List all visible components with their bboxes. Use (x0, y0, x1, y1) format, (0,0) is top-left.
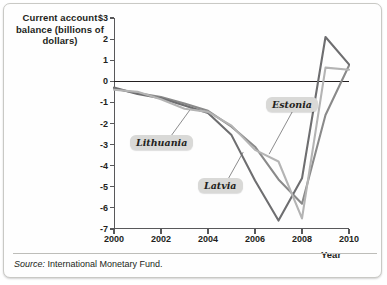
y-tick-label: -7 (100, 224, 108, 234)
x-tick-label: 2008 (292, 234, 312, 244)
plot-area: $3210-1-2-3-4-5-6-7 20002002200420062008… (114, 18, 349, 229)
x-tick (207, 229, 208, 234)
callout-leader-latvia (229, 152, 244, 178)
x-tick-label: 2006 (245, 234, 265, 244)
series-callout-latvia: Latvia (198, 178, 243, 193)
x-tick (254, 229, 255, 234)
y-axis-title: Current account balance (billions of dol… (12, 12, 108, 47)
y-tick-label: -4 (100, 161, 108, 171)
x-tick (113, 229, 114, 234)
y-tick-label: -2 (100, 119, 108, 129)
series-line-latvia (114, 37, 349, 221)
series-callout-estonia: Estonia (266, 97, 318, 112)
x-tick (301, 229, 302, 234)
x-axis-title: Year (321, 249, 341, 260)
y-tick-label: -1 (100, 97, 108, 107)
x-tick-label: 2004 (198, 234, 218, 244)
y-tick-label: -6 (100, 203, 108, 213)
x-tick-label: 2002 (151, 234, 171, 244)
source-note: Source: International Monetary Fund. (14, 259, 163, 269)
y-tick-label: $3 (98, 13, 108, 23)
y-tick-label: 0 (103, 76, 108, 86)
y-tick-label: -3 (100, 140, 108, 150)
x-tick (348, 229, 349, 234)
y-tick-label: 1 (103, 55, 108, 65)
y-tick-label: -5 (100, 182, 108, 192)
chart-card: Current account balance (billions of dol… (3, 3, 382, 278)
y-tick-label: 2 (103, 34, 108, 44)
source-text: International Monetary Fund. (48, 259, 163, 269)
x-tick (160, 229, 161, 234)
callout-leader-lithuania (172, 108, 192, 135)
source-divider (13, 253, 377, 254)
series-callout-lithuania: Lithuania (130, 135, 193, 150)
x-tick-label: 2000 (104, 234, 124, 244)
chart-figure: Current account balance (billions of dol… (0, 0, 387, 285)
source-prefix: Source: (14, 259, 45, 269)
series-lines (114, 18, 349, 229)
x-tick-label: 2010 (339, 234, 359, 244)
